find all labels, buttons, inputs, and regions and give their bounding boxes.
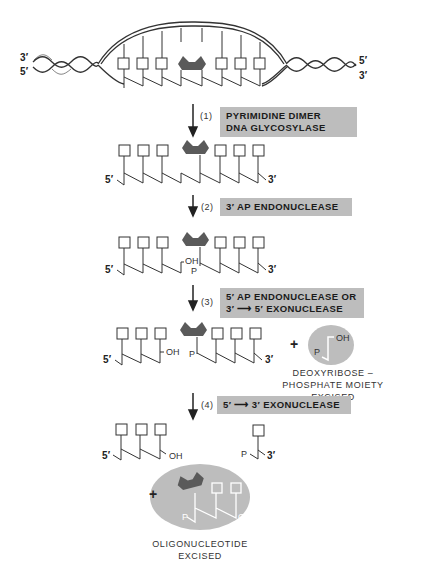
plus-sign-2: +	[149, 486, 157, 502]
step-1-enzyme-line-2: DNA GLYCOSYLASE	[226, 122, 351, 134]
deoxyribose-caption-line-1: DEOXYRIBOSE –	[268, 367, 398, 379]
strand-3-oh: OH	[166, 347, 180, 357]
step-3-enzyme-line-1: 5′ AP ENDONUCLEASE OR	[226, 291, 358, 303]
step-4-enzyme-box: 5′ ⟶ 3′ EXONUCLEASE	[217, 396, 351, 414]
top-right-5prime-label: 5′	[359, 55, 367, 67]
step-3-enzyme-box: 5′ AP ENDONUCLEASE OR 3′ ⟶ 5′ EXONUCLEAS…	[220, 288, 364, 318]
strand-2-oh: OH	[185, 256, 199, 266]
oligo-oh: OH	[238, 512, 252, 522]
dimer-icon	[182, 140, 209, 154]
top-left-3prime-label: 3′	[20, 52, 28, 64]
step-2-enzyme-box: 3′ AP ENDONUCLEASE	[220, 198, 352, 216]
deoxyribose-oh: OH	[336, 333, 350, 343]
top-left-5prime-label: 5′	[20, 66, 28, 78]
step-4-number: (4)	[201, 400, 214, 410]
strand-3-p: P	[189, 349, 195, 359]
plus-sign-1: +	[290, 336, 298, 352]
strand-2-5prime: 5′	[105, 264, 113, 276]
strand-1-3prime: 3′	[268, 174, 276, 186]
deoxyribose-byproduct	[308, 325, 354, 365]
oligo-caption-line-1: OLIGONUCLEOTIDE	[150, 538, 250, 550]
strand-4-p: P	[241, 449, 247, 459]
step-2-enzyme-line-1: 3′ AP ENDONUCLEASE	[226, 201, 346, 213]
step-3-enzyme-line-2: 3′ ⟶ 5′ EXONUCLEASE	[226, 303, 358, 315]
strand-4-5prime: 5′	[102, 450, 110, 462]
strand-3-3prime: 3′	[265, 354, 273, 366]
strand-2-3prime: 3′	[268, 264, 276, 276]
top-right-3prime-label: 3′	[359, 70, 367, 82]
dimer-icon	[178, 56, 206, 70]
top-duplex	[33, 22, 356, 86]
oligonucleotide-byproduct	[150, 464, 250, 530]
step-1-enzyme-box: PYRIMIDINE DIMER DNA GLYCOSYLASE	[220, 107, 357, 137]
step-4-enzyme-line-1: 5′ ⟶ 3′ EXONUCLEASE	[223, 399, 345, 411]
bottom-strand-top	[124, 69, 260, 88]
strand-1-5prime: 5′	[105, 174, 113, 186]
strand-4-3prime: 3′	[267, 450, 275, 462]
strand-1	[117, 140, 266, 185]
dimer-icon	[180, 322, 207, 336]
strand-4-oh: OH	[169, 451, 183, 461]
dimer-icon	[182, 232, 209, 246]
step-1-number: (1)	[200, 111, 213, 121]
oligo-caption-line-2: EXCISED	[150, 550, 250, 562]
oligo-p: P	[182, 512, 188, 522]
step-1-enzyme-line-1: PYRIMIDINE DIMER	[226, 110, 351, 122]
step-2-number: (2)	[201, 202, 214, 212]
strand-2-p: P	[191, 266, 197, 276]
deoxyribose-p: P	[314, 347, 320, 357]
strand-3-5prime: 5′	[103, 354, 111, 366]
step-3-number: (3)	[201, 297, 214, 307]
oligo-caption: OLIGONUCLEOTIDE EXCISED	[150, 538, 250, 562]
